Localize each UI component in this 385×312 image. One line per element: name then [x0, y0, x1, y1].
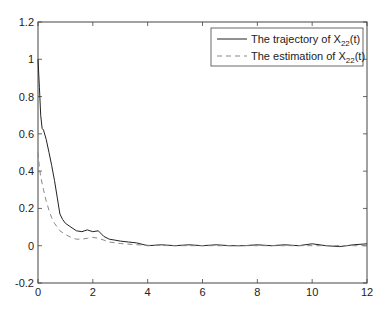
x-tick-label: 8	[254, 286, 260, 298]
x-tick-label: 10	[306, 286, 318, 298]
y-tick-label: -0.2	[15, 277, 34, 289]
y-tick-label: 1.2	[19, 16, 34, 28]
y-tick-label: 0.6	[19, 128, 34, 140]
x-tick-label: 0	[35, 286, 41, 298]
y-tick-label: 0.8	[19, 91, 34, 103]
y-tick-label: 0.4	[19, 165, 34, 177]
line-chart: 024681012-0.200.20.40.60.811.2 The traje…	[0, 0, 385, 312]
y-tick-label: 0.2	[19, 202, 34, 214]
x-tick-label: 4	[145, 286, 151, 298]
y-tick-label: 1	[28, 53, 34, 65]
legend: The trajectory of X22(t) The estimation …	[211, 28, 365, 66]
x-tick-label: 6	[199, 286, 205, 298]
x-tick-label: 12	[361, 286, 373, 298]
y-tick-label: 0	[28, 240, 34, 252]
x-tick-label: 2	[90, 286, 96, 298]
